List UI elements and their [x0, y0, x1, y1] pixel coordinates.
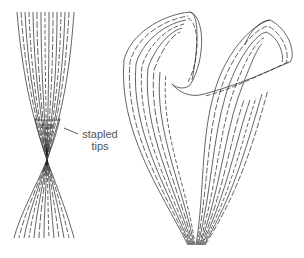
- illustration-canvas: [0, 0, 304, 258]
- right-loop-bundle: [123, 12, 292, 245]
- stapled-tips-label-line2: tips: [80, 140, 120, 152]
- stapled-tips-label: stapled tips: [80, 128, 120, 152]
- annotation-leader-line: [64, 128, 78, 134]
- left-bundle: [14, 12, 74, 238]
- stapled-tips-label-line1: stapled: [80, 128, 120, 140]
